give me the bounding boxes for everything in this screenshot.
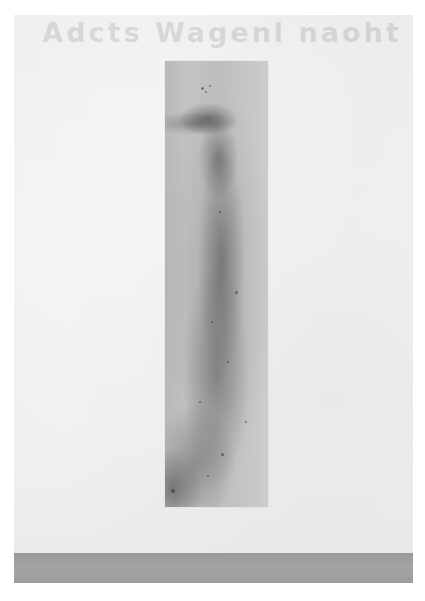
- ink-speck: [171, 489, 175, 493]
- ink-speck: [209, 85, 211, 87]
- ink-speck: [245, 421, 247, 423]
- artwork-panel: [165, 61, 268, 507]
- ink-speck: [219, 211, 221, 213]
- ink-speck: [227, 361, 229, 363]
- photograph: Adcts Wagenl naoht: [14, 15, 413, 583]
- gallery-wall: Adcts Wagenl naoht: [14, 15, 413, 553]
- gallery-floor: [14, 553, 413, 583]
- ink-speck: [207, 475, 209, 477]
- ink-speck: [221, 453, 224, 456]
- bleed-through-text: Adcts Wagenl naoht: [42, 17, 402, 48]
- ink-speck: [205, 91, 207, 93]
- ink-speck: [235, 291, 238, 294]
- ink-speck: [199, 401, 201, 403]
- ink-speck: [211, 321, 213, 323]
- ink-speck: [201, 87, 204, 90]
